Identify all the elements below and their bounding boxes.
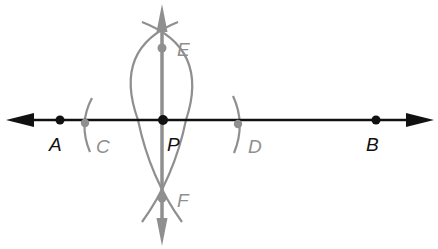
point-p [158, 115, 168, 125]
line-ab [6, 113, 434, 127]
label-p: P [167, 134, 180, 155]
arc-left-lens [131, 22, 182, 222]
point-b [372, 116, 381, 125]
perpendicular-construction-diagram: A P B C D E F [0, 0, 438, 249]
arrow-down-icon [157, 218, 168, 246]
point-d [234, 120, 242, 128]
point-f [158, 194, 167, 203]
arrow-right-icon [406, 113, 434, 127]
perpendicular-line [157, 4, 168, 246]
label-b: B [366, 134, 379, 155]
point-e [158, 44, 167, 53]
arrow-left-icon [6, 113, 34, 127]
label-a: A [48, 134, 62, 155]
label-e: E [177, 39, 190, 60]
arrow-up-icon [157, 4, 168, 32]
point-c [81, 119, 89, 127]
point-a [56, 116, 65, 125]
label-f: F [177, 190, 190, 211]
label-c: C [96, 136, 110, 157]
label-d: D [248, 136, 262, 157]
